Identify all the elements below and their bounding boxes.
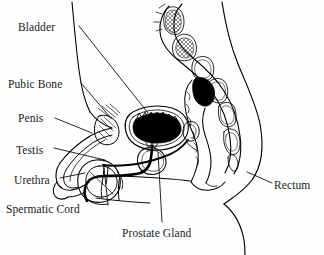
testis-leader (54, 148, 105, 160)
label-pubic-bone: Pubic Bone (8, 79, 62, 91)
pubic-bone-shape (94, 104, 120, 145)
label-spermatic-cord: Spermatic Cord (6, 204, 80, 216)
bladder-leader (79, 26, 148, 113)
penis-shape (53, 128, 112, 199)
penis-leader (55, 118, 92, 133)
label-penis: Penis (18, 113, 43, 125)
label-prostate-gland: Prostate Gland (122, 228, 191, 240)
anatomy-diagram: Bladder Pubic Bone Penis Testis Urethra … (0, 0, 324, 255)
diagram-illustration (0, 0, 324, 255)
label-urethra: Urethra (14, 175, 50, 187)
label-rectum: Rectum (274, 180, 310, 192)
vas-deferens-path (103, 140, 188, 166)
rectum-shape (185, 77, 225, 190)
perineum-contour (96, 176, 190, 203)
bladder-shape (125, 106, 188, 150)
label-bladder: Bladder (18, 22, 55, 34)
label-testis: Testis (16, 145, 43, 157)
prostate-gland-leader (158, 152, 162, 222)
